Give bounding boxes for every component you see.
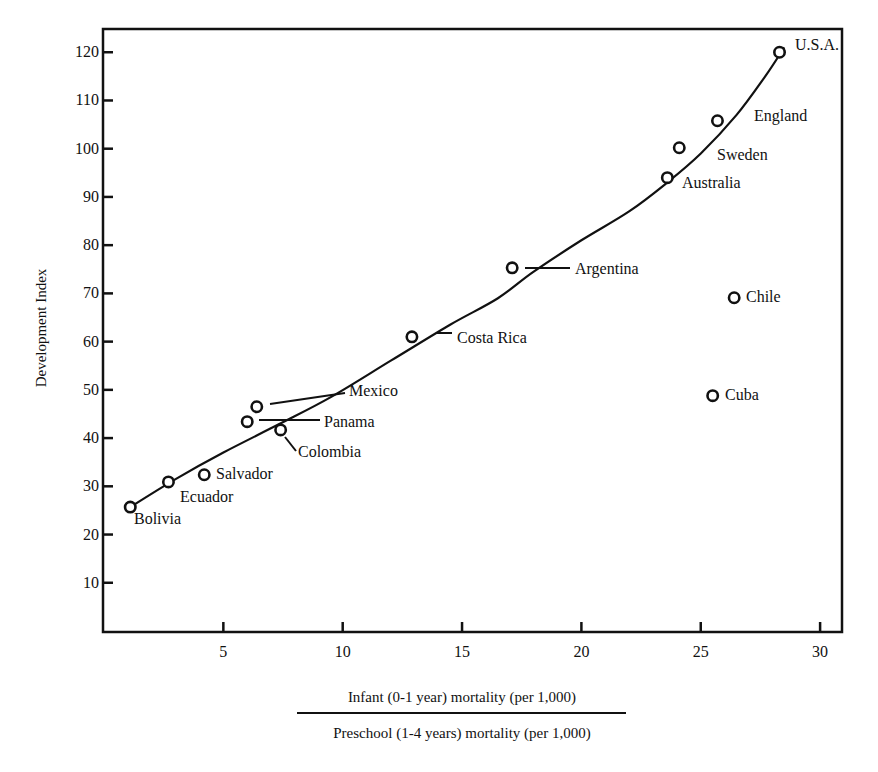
data-point-chile: [729, 293, 739, 303]
x-axis-title-numerator: Infant (0-1 year) mortality (per 1,000): [348, 689, 576, 706]
y-tick-label: 50: [83, 381, 99, 398]
x-tick-label: 30: [812, 643, 828, 660]
data-point-ecuador: [163, 477, 173, 487]
point-label-australia: Australia: [682, 174, 741, 191]
x-tick-label: 15: [454, 643, 470, 660]
data-point-panama: [242, 416, 252, 426]
point-label-bolivia: Bolivia: [134, 510, 181, 527]
point-label-colombia: Colombia: [298, 443, 361, 460]
data-point-england: [712, 116, 722, 126]
point-label-u-s-a: U.S.A.: [795, 36, 839, 53]
data-point-colombia: [275, 425, 285, 435]
x-tick-label: 5: [219, 643, 227, 660]
leader-line-colombia: [285, 437, 296, 451]
point-label-argentina: Argentina: [575, 260, 639, 278]
data-point-costa-rica: [407, 332, 417, 342]
x-tick-label: 10: [335, 643, 351, 660]
x-axis-title-denominator: Preschool (1-4 years) mortality (per 1,0…: [333, 725, 590, 742]
y-tick-label: 10: [83, 574, 99, 591]
y-axis-ticks: 102030405060708090100110120: [75, 43, 113, 591]
x-tick-label: 25: [693, 643, 709, 660]
data-point-argentina: [507, 263, 517, 273]
y-tick-label: 80: [83, 236, 99, 253]
y-tick-label: 120: [75, 43, 99, 60]
data-points: [125, 47, 785, 512]
y-tick-label: 20: [83, 526, 99, 543]
y-axis-title: Development Index: [33, 268, 49, 387]
point-label-mexico: Mexico: [349, 382, 398, 399]
point-label-salvador: Salvador: [216, 465, 274, 482]
y-tick-label: 70: [83, 284, 99, 301]
point-label-cuba: Cuba: [725, 386, 759, 403]
y-tick-label: 110: [76, 91, 99, 108]
point-label-costa-rica: Costa Rica: [457, 329, 527, 346]
data-point-u-s-a: [774, 47, 784, 57]
data-point-salvador: [199, 470, 209, 480]
trend-curve: [130, 47, 784, 507]
x-tick-label: 20: [573, 643, 589, 660]
point-labels: BoliviaEcuadorSalvadorPanamaMexicoColomb…: [134, 36, 839, 527]
y-tick-label: 60: [83, 333, 99, 350]
data-point-sweden: [674, 143, 684, 153]
point-label-panama: Panama: [324, 413, 375, 430]
label-leader-lines: [259, 268, 570, 451]
y-tick-label: 100: [75, 140, 99, 157]
point-label-sweden: Sweden: [717, 146, 768, 163]
leader-line-mexico: [270, 393, 345, 404]
point-label-england: England: [754, 107, 807, 125]
data-point-cuba: [707, 390, 717, 400]
data-point-mexico: [252, 402, 262, 412]
y-tick-label: 30: [83, 477, 99, 494]
y-tick-label: 90: [83, 188, 99, 205]
data-point-australia: [662, 172, 672, 182]
y-tick-label: 40: [83, 429, 99, 446]
scatter-chart: 102030405060708090100110120 51015202530 …: [0, 0, 878, 772]
point-label-chile: Chile: [746, 288, 781, 305]
point-label-ecuador: Ecuador: [180, 488, 234, 505]
x-axis-ticks: 51015202530: [219, 622, 828, 660]
